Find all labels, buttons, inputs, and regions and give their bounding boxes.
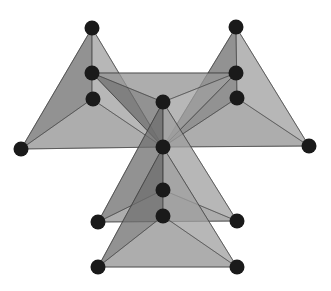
atom-sphere [91,215,106,230]
atom-sphere [230,260,245,275]
atom-sphere [302,139,317,154]
atom-sphere [230,214,245,229]
atom-sphere [14,142,29,157]
diagram-canvas [0,0,331,291]
atom-sphere [156,95,171,110]
atom-sphere [230,91,245,106]
atom-sphere [156,183,171,198]
atom-sphere [156,140,171,155]
atom-sphere [229,66,244,81]
atom-sphere [86,92,101,107]
atom-sphere [91,260,106,275]
atom-sphere [229,20,244,35]
atom-sphere [85,66,100,81]
tetrahedra-diagram [0,0,331,291]
atom-sphere [85,21,100,36]
atom-sphere [156,209,171,224]
